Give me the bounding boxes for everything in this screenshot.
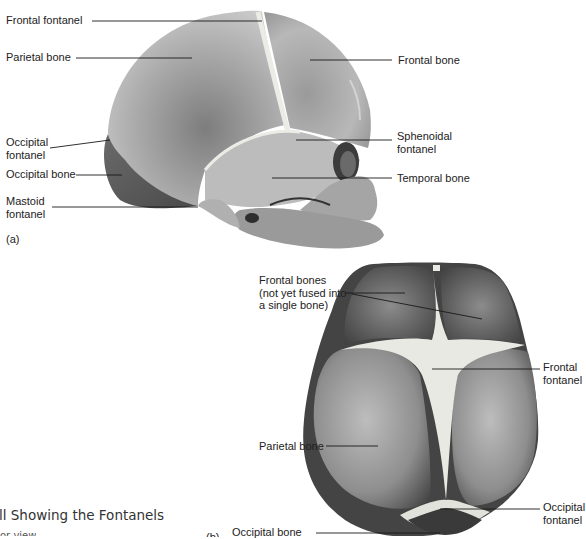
label-parietal-bone-a: Parietal bone	[6, 51, 71, 64]
label-temporal-bone-a: Temporal bone	[397, 172, 470, 185]
label-frontal-bones-b: Frontal bones (not yet fused into a sing…	[259, 274, 346, 312]
figure-subcaption: or view	[0, 530, 36, 536]
label-frontal-bone-a: Frontal bone	[398, 54, 460, 67]
label-frontal-fontanel-b: Frontal fontanel	[543, 361, 582, 386]
label-frontal-fontanel-a: Frontal fontanel	[6, 14, 82, 27]
label-occipital-fontanel-b: Occipital fontanel	[543, 501, 585, 526]
label-sphenoidal-fontanel-a: Sphenoidal fontanel	[397, 130, 452, 155]
label-occipital-bone-a: Occipital bone	[6, 168, 76, 181]
lateral-skull	[104, 11, 384, 249]
figure-caption: ll Showing the Fontanels	[0, 507, 164, 523]
label-mastoid-fontanel-a: Mastoid fontanel	[6, 195, 45, 220]
panel-b-letter: (b)	[206, 531, 219, 537]
label-parietal-bone-b: Parietal bone	[259, 440, 324, 453]
panel-a-letter: (a)	[6, 233, 19, 246]
label-occipital-fontanel-a: Occipital fontanel	[6, 136, 48, 161]
label-occipital-bone-b: Occipital bone	[232, 526, 302, 539]
